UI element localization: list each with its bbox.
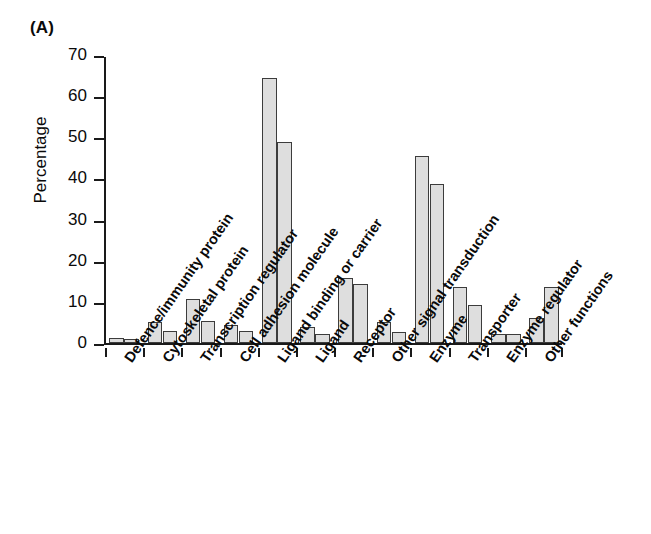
plot-area: 010203040506070 xyxy=(104,52,562,350)
y-tick: 70 xyxy=(94,56,104,58)
x-tick xyxy=(487,348,489,357)
bar xyxy=(430,184,445,343)
y-tick-label: 70 xyxy=(68,45,87,65)
bar xyxy=(544,287,559,343)
figure-panel-a: (A) Percentage 010203040506070 Defence/i… xyxy=(0,0,651,534)
y-axis-title: Percentage xyxy=(31,75,51,245)
bar xyxy=(201,321,216,343)
bar xyxy=(506,334,521,343)
x-tick xyxy=(561,348,563,357)
bar xyxy=(453,287,468,343)
y-tick: 60 xyxy=(94,97,104,99)
bar xyxy=(239,331,254,343)
x-tick xyxy=(372,348,374,357)
bar xyxy=(277,142,292,343)
bar xyxy=(262,78,277,343)
x-tick xyxy=(296,348,298,357)
x-tick xyxy=(143,348,145,357)
y-tick-label: 60 xyxy=(68,86,87,106)
bar xyxy=(529,318,544,343)
bar xyxy=(377,322,392,343)
x-tick xyxy=(334,348,336,357)
bar xyxy=(353,284,368,343)
y-tick: 40 xyxy=(94,179,104,181)
y-tick-label: 30 xyxy=(68,210,87,230)
y-tick-label: 20 xyxy=(68,251,87,271)
bar xyxy=(148,322,163,343)
y-tick: 10 xyxy=(94,303,104,305)
panel-label: (A) xyxy=(30,18,54,38)
y-tick: 30 xyxy=(94,221,104,223)
bar xyxy=(392,332,407,343)
x-axis-line xyxy=(104,343,562,345)
x-tick xyxy=(181,348,183,357)
y-tick-label: 40 xyxy=(68,168,87,188)
bar xyxy=(186,299,201,343)
y-tick: 0 xyxy=(94,344,104,346)
bar xyxy=(415,156,430,343)
bar xyxy=(315,334,330,343)
x-tick xyxy=(525,348,527,357)
y-tick-label: 0 xyxy=(78,333,87,353)
x-tick xyxy=(410,348,412,357)
bar-series-group xyxy=(104,55,562,343)
y-tick-label: 50 xyxy=(68,127,87,147)
bar xyxy=(163,331,178,343)
x-tick xyxy=(449,348,451,357)
bar xyxy=(468,305,483,343)
y-tick: 50 xyxy=(94,138,104,140)
bar xyxy=(124,339,139,343)
bar xyxy=(491,334,506,343)
x-tick xyxy=(105,348,107,357)
bar xyxy=(300,327,315,343)
bar xyxy=(109,338,124,343)
x-tick xyxy=(258,348,260,357)
bar xyxy=(338,278,353,343)
bar xyxy=(224,325,239,343)
x-tick xyxy=(220,348,222,357)
y-tick-label: 10 xyxy=(68,292,87,312)
y-tick: 20 xyxy=(94,262,104,264)
